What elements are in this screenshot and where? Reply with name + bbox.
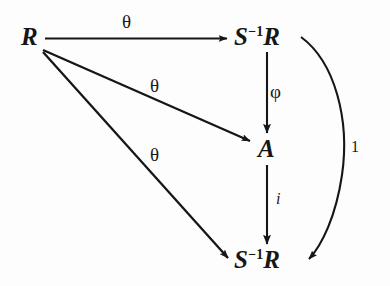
node-localization-bottom: S−1R <box>234 247 280 272</box>
node-localization-top-base: S <box>234 23 248 50</box>
edge-label-identity: 1 <box>351 139 359 155</box>
node-source-ring: R <box>21 24 38 49</box>
node-localization-top: S−1R <box>234 24 280 49</box>
node-localization-bottom-superscript: −1 <box>248 247 263 262</box>
node-target-algebra: A <box>258 136 275 161</box>
edge-label-theta-top: θ <box>122 12 131 31</box>
edge-label-theta-middle: θ <box>150 76 159 95</box>
node-localization-top-ring: R <box>263 23 280 50</box>
edge-label-i: i <box>276 191 280 207</box>
commutative-diagram: R S−1R A S−1R θ θ θ φ i 1 <box>0 0 390 286</box>
edge-label-theta-bottom: θ <box>150 145 159 164</box>
node-localization-bottom-ring: R <box>263 246 280 273</box>
node-target-algebra-text: A <box>258 135 275 162</box>
edge-label-phi: φ <box>270 82 281 101</box>
diagram-arrows-layer <box>0 0 390 286</box>
arrow-r-to-localization-bottom <box>43 52 228 258</box>
node-localization-bottom-base: S <box>234 246 248 273</box>
arrow-r-to-a <box>43 50 250 141</box>
arrow-identity-curved <box>301 37 344 259</box>
node-source-ring-text: R <box>21 23 38 50</box>
node-localization-top-superscript: −1 <box>248 24 263 39</box>
